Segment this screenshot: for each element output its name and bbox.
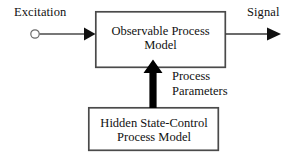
observable-box-line-2: Model [96, 38, 225, 52]
excitation-label: Excitation [14, 6, 66, 20]
process-parameters-line-2: Parameters [172, 84, 228, 99]
signal-label: Signal [247, 6, 280, 20]
process-parameters-line-1: Process [172, 69, 228, 84]
process-parameters-edge-label: Process Parameters [172, 69, 228, 98]
signal-arrowhead-icon [267, 27, 281, 40]
hidden-box-line-2: Process Model [89, 130, 219, 144]
excitation-arrowhead-icon [84, 27, 96, 40]
block-diagram: Excitation Signal Observable Process Mod… [0, 0, 299, 157]
excitation-source-circle-icon [31, 30, 39, 38]
hidden-box-line-1: Hidden State-Control [89, 116, 219, 130]
observable-box-line-1: Observable Process [96, 24, 225, 38]
observable-process-model-label: Observable Process Model [96, 24, 225, 52]
hidden-state-control-process-model-label: Hidden State-Control Process Model [89, 116, 219, 144]
